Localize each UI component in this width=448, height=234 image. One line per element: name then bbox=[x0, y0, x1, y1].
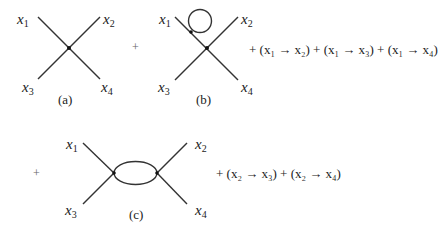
label-x1-b: x1 bbox=[158, 11, 171, 29]
label-x3-b: x3 bbox=[157, 79, 170, 97]
label-x3-c: x3 bbox=[64, 202, 77, 220]
label-x4-b: x4 bbox=[240, 79, 253, 97]
label-x4-a: x4 bbox=[100, 79, 113, 97]
label-x3-a: x3 bbox=[21, 79, 34, 97]
bubble-loop bbox=[114, 162, 157, 185]
caption-b: (b) bbox=[196, 92, 211, 107]
permutations-row1: + (x₁ → x₂) + (x₁ → x₃) + (x₁ → x₄) bbox=[249, 42, 438, 57]
label-x1-c: x1 bbox=[65, 136, 78, 154]
label-x2-c: x2 bbox=[194, 136, 207, 154]
feynman-diagrams: x1 x2 x3 x4 (a) + x1 x2 x3 x4 (b) + (x₁ … bbox=[0, 0, 448, 234]
caption-a: (a) bbox=[58, 92, 72, 107]
label-x2-a: x2 bbox=[102, 11, 115, 29]
plus-operator: + bbox=[132, 40, 139, 54]
label-x2-b: x2 bbox=[240, 11, 253, 29]
diagram-a: x1 x2 x3 x4 (a) bbox=[16, 11, 115, 107]
caption-c: (c) bbox=[129, 207, 143, 222]
label-x4-c: x4 bbox=[194, 202, 207, 220]
permutations-row2: + (x₂ → x₃) + (x₂ → x₄) bbox=[216, 166, 341, 181]
diagram-b: x1 x2 x3 x4 (b) bbox=[157, 10, 253, 108]
plus-operator-2: + bbox=[33, 166, 40, 180]
label-x1-a: x1 bbox=[16, 11, 29, 29]
self-energy-loop bbox=[189, 10, 212, 33]
diagram-c: x1 x2 x3 x4 (c) bbox=[64, 136, 207, 222]
